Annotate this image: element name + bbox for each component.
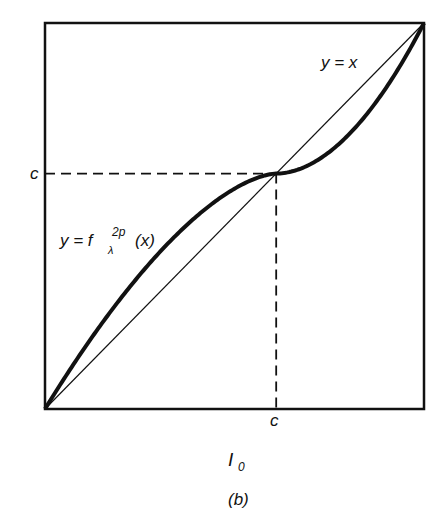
- curve-label: y = f 2p λ (x): [59, 225, 155, 256]
- svg-text:I: I: [228, 449, 234, 470]
- svg-text:y = f: y = f: [59, 231, 95, 250]
- x-axis-title: I 0: [228, 449, 245, 474]
- svg-text:(x): (x): [135, 231, 155, 250]
- identity-line: [45, 23, 424, 409]
- diagram: c c y = x y = f 2p λ (x) I 0 (b): [0, 0, 443, 512]
- x-axis-c-label: c: [270, 411, 279, 430]
- svg-text:0: 0: [238, 460, 245, 474]
- panel-label: (b): [228, 490, 249, 509]
- identity-line-label: y = x: [320, 53, 358, 72]
- svg-text:2p: 2p: [111, 225, 126, 239]
- y-axis-c-label: c: [30, 164, 39, 183]
- svg-text:λ: λ: [107, 244, 113, 256]
